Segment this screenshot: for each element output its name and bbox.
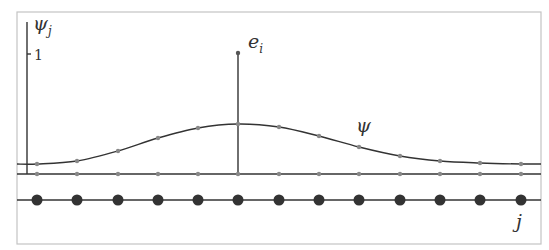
lattice-node xyxy=(516,195,527,206)
baseline-node xyxy=(75,172,79,176)
psi-node xyxy=(277,125,281,129)
lattice-node xyxy=(193,195,204,206)
lattice-node xyxy=(72,195,83,206)
spike-tip xyxy=(236,51,240,55)
baseline-node xyxy=(398,172,402,176)
baseline-node xyxy=(156,172,160,176)
psi-node xyxy=(438,159,442,163)
baseline-node xyxy=(478,172,482,176)
lattice-node xyxy=(32,195,43,206)
psi-node xyxy=(317,134,321,138)
lattice-node xyxy=(113,195,124,206)
psi-node xyxy=(156,136,160,140)
curve-label: ψ xyxy=(356,114,372,136)
baseline-node xyxy=(277,172,281,176)
psi-node xyxy=(357,145,361,149)
lattice-node xyxy=(354,195,365,206)
psi-node xyxy=(398,154,402,158)
baseline-node xyxy=(35,172,39,176)
psi-node xyxy=(519,162,523,166)
lattice-node xyxy=(314,195,325,206)
lattice-node xyxy=(435,195,446,206)
lattice-node xyxy=(274,195,285,206)
baseline-node xyxy=(519,172,523,176)
nodes xyxy=(32,122,527,206)
psi-node xyxy=(35,162,39,166)
y-tick-label: 1 xyxy=(34,47,43,63)
x-axis-label: j xyxy=(512,210,522,232)
lattice-node xyxy=(395,195,406,206)
spike-label: ei xyxy=(248,30,263,56)
baseline-node xyxy=(236,172,240,176)
psi-node xyxy=(116,149,120,153)
lattice-node xyxy=(475,195,486,206)
psi-node xyxy=(196,126,200,130)
baseline-node xyxy=(357,172,361,176)
y-axis-label: ψj xyxy=(33,12,52,38)
baseline-node xyxy=(116,172,120,176)
diagram-canvas: ψj 1 ei ψ j xyxy=(0,0,549,250)
lattice-node xyxy=(153,195,164,206)
lattice-node xyxy=(233,195,244,206)
psi-node xyxy=(478,161,482,165)
baseline-node xyxy=(317,172,321,176)
psi-curve xyxy=(17,124,541,164)
psi-node xyxy=(236,122,240,126)
baseline-node xyxy=(196,172,200,176)
psi-node xyxy=(75,159,79,163)
baseline-node xyxy=(438,172,442,176)
